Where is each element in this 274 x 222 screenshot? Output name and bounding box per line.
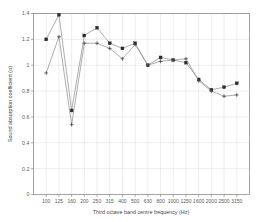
data-point-marker-square	[83, 34, 86, 37]
x-tick-label: 1250	[180, 198, 191, 204]
x-tick-label: 800	[156, 198, 165, 204]
figure-background	[0, 0, 274, 222]
chart-figure: 00.20.40.60.811.21.4 1001251602002503154…	[0, 0, 274, 222]
data-point-marker-square	[184, 61, 187, 64]
x-tick-label: 315	[106, 198, 115, 204]
x-tick-label: 100	[42, 198, 51, 204]
x-tick-label: 160	[67, 198, 76, 204]
x-tick-label: 500	[131, 198, 140, 204]
data-point-marker-square	[235, 82, 238, 85]
x-tick-label: 400	[118, 198, 127, 204]
x-tick-label: 1600	[193, 198, 204, 204]
y-tick-label: 0.4	[22, 140, 29, 146]
data-point-marker-square	[96, 26, 99, 29]
data-point-marker-square	[57, 13, 60, 16]
data-point-marker-square	[121, 47, 124, 50]
x-tick-label: 3150	[231, 198, 242, 204]
data-point-marker-square	[70, 109, 73, 112]
x-axis-title: Third octave band centre frequency (Hz)	[93, 209, 190, 215]
data-point-marker-square	[223, 86, 226, 89]
x-tick-label: 250	[93, 198, 102, 204]
y-tick-label: 0.2	[22, 166, 29, 172]
x-tick-label: 2000	[206, 198, 217, 204]
x-tick-label: 2500	[219, 198, 230, 204]
data-point-marker-square	[159, 56, 162, 59]
x-tick-label: 630	[144, 198, 153, 204]
x-tick-label: 1000	[168, 198, 179, 204]
chart-svg: 00.20.40.60.811.21.4 1001251602002503154…	[0, 0, 274, 222]
data-point-marker-square	[45, 38, 48, 41]
x-tick-label: 200	[80, 198, 89, 204]
y-tick-label: 1	[26, 62, 29, 68]
y-tick-label: 1.4	[22, 10, 29, 16]
y-tick-label: 0	[26, 191, 29, 197]
x-tick-label: 125	[55, 198, 64, 204]
y-tick-label: 1.2	[22, 36, 29, 42]
y-axis-title: Sound absorption coefficient (α)	[7, 66, 13, 142]
data-point-marker-square	[108, 42, 111, 45]
y-tick-label: 0.8	[22, 88, 29, 94]
y-tick-label: 0.6	[22, 114, 29, 120]
